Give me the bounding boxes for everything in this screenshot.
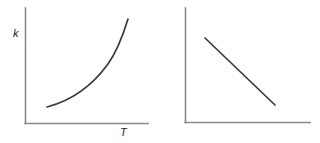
x-axis-label-symbol: T: [120, 126, 127, 138]
data-curve-exponential: [47, 19, 128, 107]
x-axis-label: T: [120, 127, 127, 138]
y-axis-label: k: [13, 28, 19, 39]
chart-svg-k-vs-t: [0, 0, 160, 143]
chart-panel-lnk-vs-inverse-t: ln k 1/T: [160, 0, 320, 143]
chart-svg-lnk-vs-inverse-t: [160, 0, 320, 143]
figure-container: k T ln k 1/T: [0, 0, 320, 143]
data-curve-linear: [205, 38, 275, 105]
y-axis-label-symbol: k: [13, 27, 19, 39]
chart-panel-k-vs-t: k T: [0, 0, 160, 143]
